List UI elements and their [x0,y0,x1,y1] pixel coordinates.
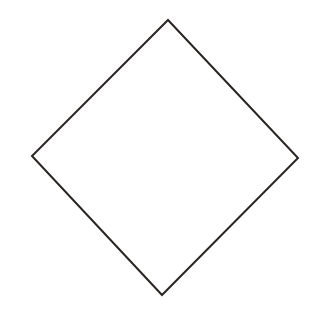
diamond-diagram [0,0,332,320]
diamond-shape [32,20,298,295]
diagram-canvas [0,0,332,320]
